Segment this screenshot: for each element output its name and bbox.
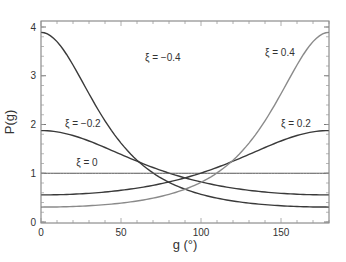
series-annotation: ξ = 0.2 <box>281 118 311 130</box>
y-tick-label: 0 <box>30 217 36 228</box>
y-axis-label: P(g) <box>2 110 17 135</box>
x-axis-label: g (°) <box>173 237 198 252</box>
phase-function-chart: 01234050100150 g (°) P(g) ξ = −0.4ξ = −0… <box>0 0 346 262</box>
series-annotation: ξ = 0.4 <box>265 47 295 59</box>
series-annotation: ξ = −0.4 <box>145 52 181 64</box>
y-tick-label: 4 <box>30 22 36 33</box>
x-tick-label: 50 <box>115 227 127 238</box>
series-annotation: ξ = −0.2 <box>65 118 101 130</box>
x-tick-label: 150 <box>273 227 290 238</box>
y-tick-label: 1 <box>30 168 36 179</box>
series-annotation: ξ = 0 <box>76 157 98 169</box>
x-tick-label: 0 <box>38 227 44 238</box>
y-tick-label: 3 <box>30 70 36 81</box>
series-annotations: ξ = −0.4ξ = −0.2ξ = 0ξ = 0.4ξ = 0.2 <box>65 47 311 169</box>
y-tick-label: 2 <box>30 119 36 130</box>
